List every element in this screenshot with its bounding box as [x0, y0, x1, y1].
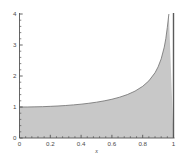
x-tick-label: 0.8 [138, 140, 147, 147]
x-tick-label: 0.6 [108, 140, 117, 147]
x-tick-label: 1 [172, 140, 176, 147]
area-chart: 01234 00.20.40.60.81 x [0, 0, 192, 157]
x-tick-label: 0.2 [46, 140, 55, 147]
chart-figure: 01234 00.20.40.60.81 x [0, 0, 192, 157]
y-tick-label: 3 [13, 41, 17, 48]
x-axis-title: x [94, 148, 98, 154]
y-tick-label: 4 [13, 10, 17, 17]
y-tick-label: 0 [13, 134, 17, 141]
y-tick-label: 2 [13, 72, 17, 79]
y-tick-label: 1 [13, 103, 17, 110]
x-tick-label: 0.4 [77, 140, 86, 147]
x-tick-label: 0 [18, 140, 22, 147]
